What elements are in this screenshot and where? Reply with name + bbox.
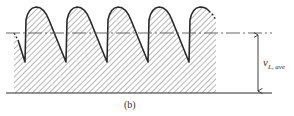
voltage-subscript: L, ave: [268, 63, 285, 71]
rectified-waveform-diagram: [0, 0, 294, 116]
figure-caption: (b): [124, 99, 136, 110]
hatched-area: [14, 7, 216, 93]
average-voltage-label: vL, ave: [263, 56, 285, 68]
